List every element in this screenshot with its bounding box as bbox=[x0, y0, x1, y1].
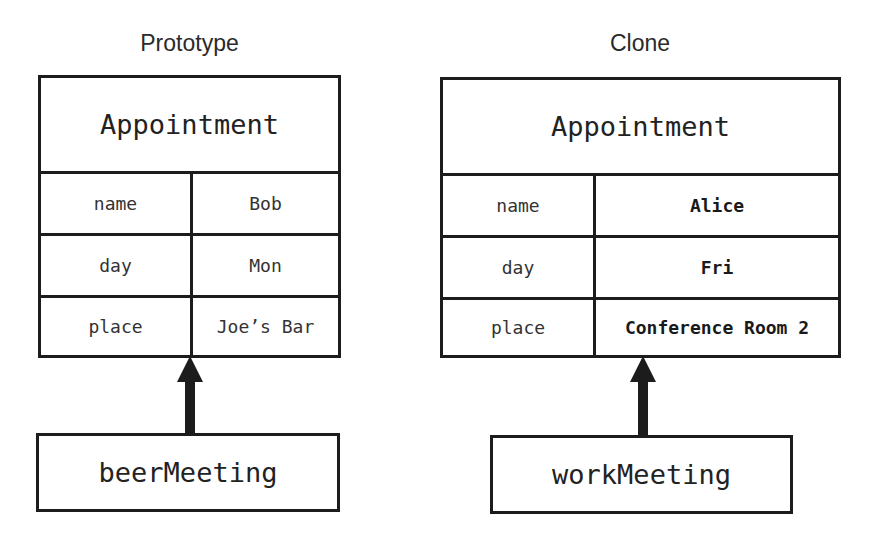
clone-reference-arrow-icon bbox=[627, 356, 659, 438]
field-value: Bob bbox=[193, 174, 338, 233]
field-key: day bbox=[443, 238, 596, 297]
prototype-class-header: Appointment bbox=[41, 78, 338, 174]
clone-row-name: name Alice bbox=[443, 176, 838, 238]
field-value: Joe’s Bar bbox=[193, 298, 338, 355]
clone-class-header: Appointment bbox=[443, 80, 838, 176]
field-key: day bbox=[41, 236, 193, 295]
prototype-title: Prototype bbox=[38, 30, 341, 57]
prototype-row-day: day Mon bbox=[41, 236, 338, 298]
field-key: place bbox=[41, 298, 193, 355]
clone-title: Clone bbox=[440, 30, 840, 57]
field-key: name bbox=[41, 174, 193, 233]
work-meeting-object: workMeeting bbox=[490, 435, 793, 514]
field-value: Conference Room 2 bbox=[596, 300, 838, 355]
field-key: name bbox=[443, 176, 596, 235]
prototype-row-name: name Bob bbox=[41, 174, 338, 236]
clone-row-place: place Conference Room 2 bbox=[443, 300, 838, 355]
field-key: place bbox=[443, 300, 596, 355]
field-value: Fri bbox=[596, 238, 838, 297]
prototype-reference-arrow-icon bbox=[174, 356, 206, 436]
clone-row-day: day Fri bbox=[443, 238, 838, 300]
beer-meeting-object: beerMeeting bbox=[36, 433, 340, 512]
prototype-appointment-table: Appointment name Bob day Mon place Joe’s… bbox=[38, 75, 341, 358]
clone-appointment-table: Appointment name Alice day Fri place Con… bbox=[440, 77, 841, 358]
prototype-row-place: place Joe’s Bar bbox=[41, 298, 338, 355]
field-value: Alice bbox=[596, 176, 838, 235]
field-value: Mon bbox=[193, 236, 338, 295]
